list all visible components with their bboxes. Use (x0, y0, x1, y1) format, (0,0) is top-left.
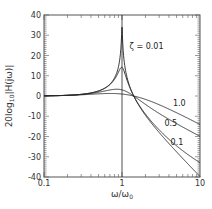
x-tick-label: 10 (195, 179, 205, 188)
y-tick-label: 20 (31, 52, 41, 61)
x-axis-title: ω/ω0 (111, 189, 133, 200)
y-tick-label: 10 (31, 72, 41, 81)
curve-label: 0.5 (164, 119, 177, 128)
curve-label: 0.1 (171, 138, 184, 147)
y-axis-title: 20log10|H(jω)| (4, 65, 15, 128)
y-tick-label: 30 (31, 31, 41, 40)
x-tick-labels: 0.1110 (38, 179, 205, 188)
y-tick-label: -30 (28, 153, 41, 162)
y-tick-label: -10 (28, 112, 41, 121)
bode-magnitude-chart: 403020100-10-20-30-40 0.1110 ζ = 0.011.0… (0, 0, 212, 209)
curve-label: ζ = 0.01 (130, 42, 164, 51)
x-tick-label: 1 (119, 179, 124, 188)
y-tick-label: -20 (28, 133, 41, 142)
y-tick-label: 40 (31, 11, 41, 20)
x-tick-label: 0.1 (38, 179, 51, 188)
y-tick-labels: 403020100-10-20-30-40 (28, 11, 41, 182)
curve-label: 1.0 (173, 99, 186, 108)
y-tick-label: 0 (36, 92, 41, 101)
